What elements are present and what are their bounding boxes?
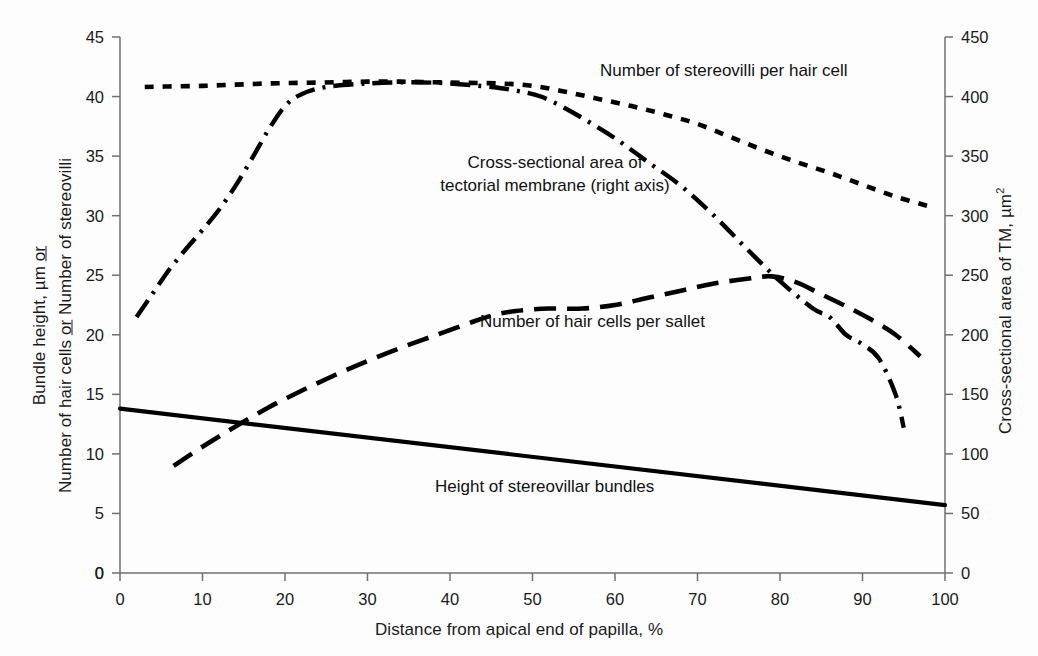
axis-tick-label: 80: [771, 590, 789, 608]
axis-tick-label: 0: [95, 564, 104, 582]
axis-tick-label: 50: [523, 590, 541, 608]
axis-tick-label: 30: [358, 590, 376, 608]
y-left-label-line2: Number of hair cells or Number of stereo…: [55, 158, 74, 493]
axis-tick-label: 450: [961, 28, 989, 46]
axis-tick-label: 400: [961, 88, 989, 106]
axis-tick-label: 150: [961, 385, 989, 403]
axis-tick-label: 100: [931, 590, 959, 608]
annotation-stereovillar-bundles: Height of stereovillar bundles: [435, 476, 654, 499]
y-axis-left-ticks: 051015202530354045: [86, 28, 120, 582]
x-axis-ticks: 01020304050607080901000: [95, 564, 959, 608]
axis-tick-label: 40: [86, 88, 104, 106]
annotation-hair-cells: Number of hair cells per sallet: [480, 311, 705, 334]
axis-tick-label: 10: [193, 590, 211, 608]
chart-figure: 051015202530354045 050100150200250300350…: [0, 0, 1038, 656]
axis-tick-label: 100: [961, 445, 989, 463]
axis-tick-label: 0: [115, 590, 124, 608]
y-left-label-line1: Bundle height, µm or: [30, 246, 49, 405]
axis-tick-label: 350: [961, 147, 989, 165]
axis-tick-label: 90: [853, 590, 871, 608]
axis-tick-label: 70: [688, 590, 706, 608]
axis-tick-label: 300: [961, 207, 989, 225]
x-axis-label: Distance from apical end of papilla, %: [0, 620, 1038, 640]
axis-tick-label: 30: [86, 207, 104, 225]
y-axis-right-ticks: 050100150200250300350400450: [945, 28, 989, 582]
data-series-layer: [120, 82, 945, 506]
y-axis-left-label: Bundle height, µm or Number of hair cell…: [27, 111, 78, 541]
axis-tick-label: 10: [86, 445, 104, 463]
axis-tick-label: 50: [961, 504, 979, 522]
axis-tick-label: 200: [961, 326, 989, 344]
annotation-tectorial-membrane: Cross-sectional area of tectorial membra…: [405, 152, 705, 198]
axis-tick-label: 45: [86, 28, 104, 46]
axis-tick-label: 5: [95, 504, 104, 522]
axis-tick-label: 35: [86, 147, 104, 165]
annotation-stereovilli: Number of stereovilli per hair cell: [600, 60, 848, 83]
series-line-1: [137, 82, 904, 427]
axis-tick-label: 0: [961, 564, 970, 582]
axis-tick-label: 20: [86, 326, 104, 344]
axis-tick-label: 25: [86, 266, 104, 284]
axis-tick-label: 250: [961, 266, 989, 284]
y-right-label-text: Cross-sectional area of TM, µm: [996, 194, 1015, 434]
axis-tick-label: 20: [276, 590, 294, 608]
axis-tick-label: 15: [86, 385, 104, 403]
annotation-tm-line2: tectorial membrane (right axis): [440, 176, 670, 195]
axis-tick-label: 40: [441, 590, 459, 608]
annotation-tm-line1: Cross-sectional area of: [468, 153, 643, 172]
axis-tick-label: 60: [606, 590, 624, 608]
y-right-label-exponent: 2: [994, 188, 1006, 194]
y-axis-right-label: Cross-sectional area of TM, µm2: [994, 96, 1016, 526]
